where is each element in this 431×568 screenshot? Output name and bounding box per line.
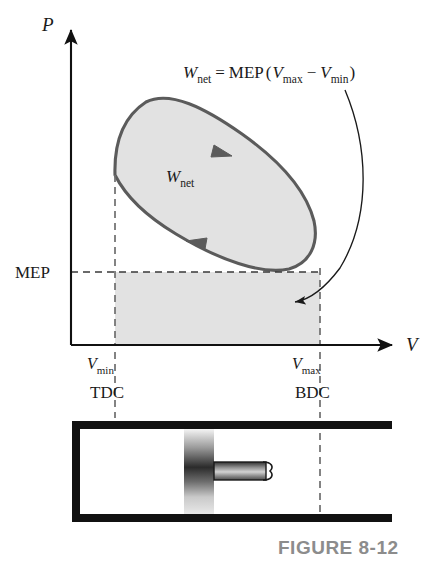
cylinder-bottom-wall [72,514,392,522]
eq-close-paren: ) [350,63,356,82]
mep-tick-label: MEP [15,263,50,282]
eq-vmax-subscript: max [283,73,303,85]
mep-rectangle-area [115,272,320,345]
bdc-label: BDC [295,383,330,402]
work-equation: Wnet=MEP(Vmax−Vmin) [183,63,355,85]
figure-svg: P V MEP Vmin Vmax TDC BDC Wnet Wnet=MEP(… [0,0,431,568]
eq-vmin-subscript: min [331,73,349,85]
vmax-subscript: max [302,364,321,376]
figure-8-12: P V MEP Vmin Vmax TDC BDC Wnet Wnet=MEP(… [0,0,431,568]
eq-minus: − [307,63,317,82]
cycle-loop-fill [115,98,315,270]
cylinder-top-wall [72,421,392,429]
vmin-subscript: min [97,364,115,376]
piston [184,429,214,514]
volume-axis-label: V [406,334,420,355]
connecting-rod [214,462,266,480]
tdc-label: TDC [90,383,124,402]
pressure-axis-label: P [41,14,54,35]
cylinder-gas-volume [80,429,184,514]
eq-open-paren: ( [266,63,272,82]
eq-mep: MEP [229,63,264,82]
cylinder-left-end-wall [72,421,80,522]
figure-caption: FIGURE 8-12 [278,537,399,558]
vmin-tick-label: Vmin [87,355,114,376]
eq-equals: = [215,63,225,82]
wnet-area-subscript: net [180,177,195,189]
piston-cylinder-assembly [72,421,392,522]
eq-w-subscript: net [197,73,212,85]
vmax-tick-label: Vmax [292,355,321,376]
